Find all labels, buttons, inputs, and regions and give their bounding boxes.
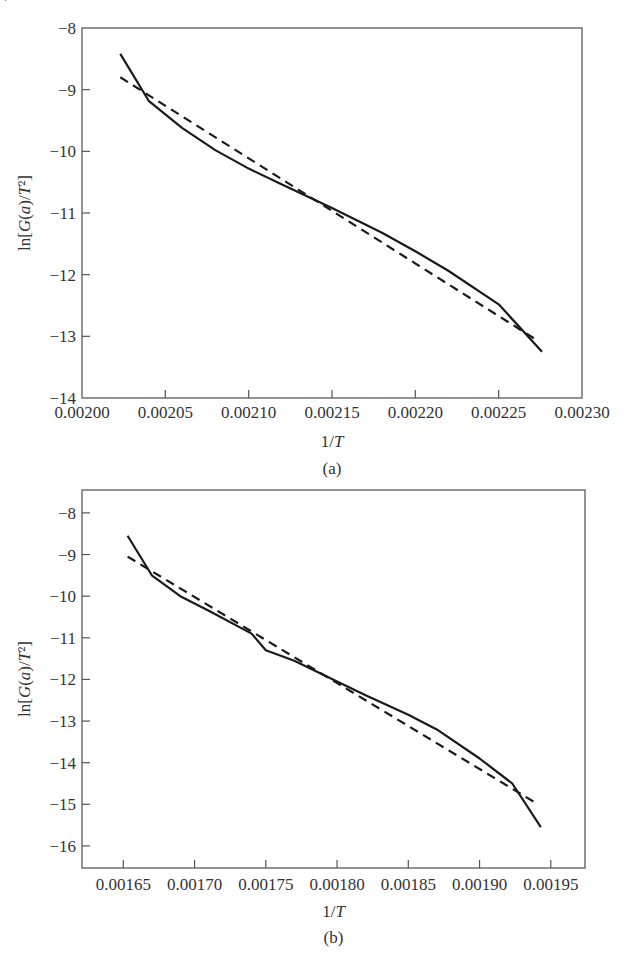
x-tick-label: 0.00210 [221, 403, 276, 422]
y-tick-label: −9 [58, 546, 76, 565]
y-tick-label: −12 [49, 670, 76, 689]
y-tick-label: −9 [58, 81, 76, 100]
x-axis-label: 1/T [321, 432, 345, 451]
x-tick-label: 0.00190 [452, 875, 507, 894]
y-tick-label: −12 [49, 266, 76, 285]
y-tick-label: −10 [49, 587, 76, 606]
y-tick-label: −8 [58, 19, 76, 38]
x-tick-label: 0.00175 [238, 875, 293, 894]
y-tick-label: −11 [50, 204, 76, 223]
fit-line-dashed [120, 77, 538, 341]
y-axis-label: ln[G(a)/T²] [15, 641, 34, 717]
chart-a-plot: 0.002000.002050.002100.002150.002200.002… [0, 0, 628, 480]
x-tick-label: 0.00205 [138, 403, 193, 422]
y-tick-label: −11 [50, 629, 76, 648]
x-tick-label: 0.00180 [309, 875, 364, 894]
chart-b-plot: 0.001650.001700.001750.001800.001850.001… [0, 480, 628, 961]
figure-caption: (b) [324, 928, 344, 947]
x-tick-label: 0.00170 [167, 875, 222, 894]
x-tick-label: 0.00195 [523, 875, 578, 894]
plot-frame [82, 28, 582, 398]
x-tick-label: 0.00220 [388, 403, 443, 422]
y-tick-label: −8 [58, 504, 76, 523]
x-tick-label: 0.00215 [304, 403, 359, 422]
y-tick-label: −13 [49, 712, 76, 731]
x-tick-label: 0.00225 [471, 403, 526, 422]
y-axis-label: ln[G(a)/T²] [15, 175, 34, 251]
x-tick-label: 0.00185 [381, 875, 436, 894]
x-axis-label: 1/T [322, 902, 346, 921]
y-tick-label: −15 [49, 795, 76, 814]
x-tick-label: 0.00230 [554, 403, 609, 422]
y-tick-label: −13 [49, 327, 76, 346]
y-tick-label: −10 [49, 142, 76, 161]
y-tick-label: −14 [49, 389, 76, 408]
chart-b: 0.001650.001700.001750.001800.001850.001… [0, 480, 628, 961]
x-tick-label: 0.00165 [96, 875, 151, 894]
y-tick-label: −16 [49, 837, 76, 856]
chart-a: 0.002000.002050.002100.002150.002200.002… [0, 0, 628, 480]
figure-caption: (a) [323, 459, 342, 478]
data-line-solid [120, 54, 542, 352]
y-tick-label: −14 [49, 754, 76, 773]
